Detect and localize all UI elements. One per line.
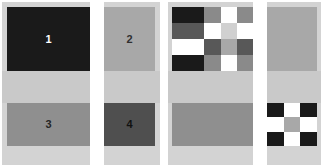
quadrant-4-checkerboard — [267, 103, 317, 146]
checker-cell — [300, 132, 317, 146]
checker-cell — [267, 117, 284, 131]
checker-cell — [204, 23, 220, 39]
left-panel-middle-band — [2, 71, 160, 103]
checker-cell — [172, 55, 188, 71]
checker-cell — [284, 117, 301, 131]
checker-cell — [237, 39, 253, 55]
quadrant-4-label: 4 — [126, 119, 132, 130]
checker-cell — [221, 23, 237, 39]
quadrant-2-solid — [267, 7, 317, 71]
quadrant-2: 2 — [104, 7, 155, 71]
checker-cell — [204, 7, 220, 23]
checker-cell — [237, 7, 253, 23]
quadrant-3-solid — [172, 103, 253, 146]
checker-cell — [284, 103, 301, 117]
checker-cell — [237, 55, 253, 71]
checker-cell — [172, 23, 188, 39]
quadrant-1: 1 — [7, 7, 90, 71]
figure-root: 1 2 3 4 — [0, 0, 323, 167]
right-panel-vertical-gutter — [253, 2, 267, 165]
right-panel-middle-band — [168, 71, 321, 103]
quadrant-3: 3 — [7, 103, 90, 146]
quadrant-1-label: 1 — [45, 34, 51, 45]
checker-cell — [172, 39, 188, 55]
left-panel: 1 2 3 4 — [0, 0, 162, 167]
checker-cell — [300, 103, 317, 117]
checker-cell — [221, 7, 237, 23]
quadrant-2-label: 2 — [126, 34, 132, 45]
right-panel — [166, 0, 323, 167]
checker-cell — [267, 132, 284, 146]
checker-cell — [300, 117, 317, 131]
checker-cell — [172, 7, 188, 23]
checker-cell — [237, 23, 253, 39]
checker-cell — [188, 7, 204, 23]
checker-cell — [204, 39, 220, 55]
checker-cell — [188, 23, 204, 39]
checker-cell — [188, 39, 204, 55]
checker-cell — [267, 103, 284, 117]
checker-cell — [221, 39, 237, 55]
quadrant-4: 4 — [104, 103, 155, 146]
checker-cell — [284, 132, 301, 146]
checker-cell — [221, 55, 237, 71]
checker-cell — [204, 55, 220, 71]
left-panel-vertical-gutter — [90, 2, 104, 165]
checker-cell — [188, 55, 204, 71]
quadrant-3-label: 3 — [45, 119, 51, 130]
quadrant-1-checkerboard — [172, 7, 253, 71]
